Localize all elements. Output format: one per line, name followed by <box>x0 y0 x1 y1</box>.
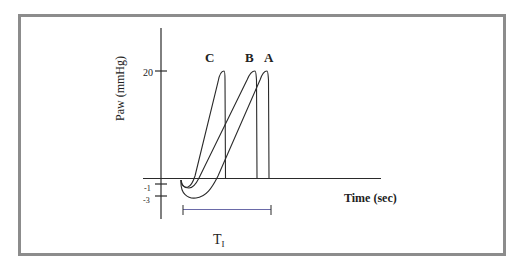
tick-label-minus-1: -1 <box>144 184 151 193</box>
x-axis-label: Time (sec) <box>344 191 397 205</box>
figure: 20 -1 -3 Paw (mmHg) C B A Time (sec) TI <box>0 0 518 268</box>
paw-chart: 20 -1 -3 Paw (mmHg) C B A Time (sec) TI <box>0 0 518 268</box>
curve-b <box>181 71 257 188</box>
y-axis-label: Paw (mmHg) <box>113 56 127 121</box>
ti-label: TI <box>213 232 225 249</box>
tick-label-20: 20 <box>143 67 153 78</box>
curve-label-c: C <box>205 50 214 65</box>
curve-label-b: B <box>245 50 254 65</box>
curve-label-a: A <box>264 50 274 65</box>
ti-label-sub: I <box>222 239 225 249</box>
tick-label-minus-3: -3 <box>143 196 150 205</box>
